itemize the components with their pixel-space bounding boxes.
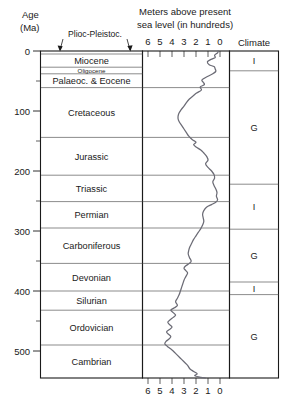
period-label-palaeoc-eocene: Palaeoc. & Eocene <box>52 76 130 86</box>
age-tick-label-0: 0 <box>25 46 30 57</box>
sl-top-tick-label-2: 2 <box>193 36 198 47</box>
climate-band-label: G <box>250 251 257 261</box>
leader-arrow-right <box>127 39 133 52</box>
sea-level-axis-bottom: 6 5 4 3 2 1 0 <box>145 378 222 396</box>
climate-band-label: I <box>253 284 256 294</box>
climate-column-frame <box>230 51 279 378</box>
period-label-ordovician: Ordovician <box>70 323 114 333</box>
sl-top-tick-label-3: 3 <box>181 36 186 47</box>
leader-arrow-left <box>58 39 63 52</box>
sl-top-tick-label-1: 1 <box>205 36 210 47</box>
plioc-pleistoc-leader-label: Plioc-Pleistoc. <box>68 29 122 39</box>
climate-column-label: Climate <box>238 37 270 48</box>
age-tick-100: 100 <box>14 106 40 117</box>
age-tick-label-500: 500 <box>14 346 30 357</box>
period-label-cambrian: Cambrian <box>72 357 112 367</box>
age-label-line1: Age <box>22 9 39 20</box>
sl-bottom-tick-label-4: 4 <box>169 385 174 396</box>
sl-top-tick-label-6: 6 <box>145 36 150 47</box>
age-tick-label-200: 200 <box>14 166 30 177</box>
sl-bottom-tick-label-1: 1 <box>205 385 210 396</box>
sl-bottom-tick-label-2: 2 <box>193 385 198 396</box>
period-label-carboniferous: Carboniferous <box>63 241 121 251</box>
sea-level-curve <box>165 51 218 378</box>
sea-level-axis-top: 6 5 4 3 2 1 0 <box>145 36 222 57</box>
figure-svg: Age (Ma) Meters above present sea level … <box>0 0 291 415</box>
age-tick-label-300: 300 <box>14 226 30 237</box>
climate-bands: IGIGIG <box>143 56 279 345</box>
age-tick-label-400: 400 <box>14 286 30 297</box>
sea-level-plot-frame <box>143 51 230 378</box>
period-label-triassic: Triassic <box>76 184 108 194</box>
period-label-oligocene: Oligocene <box>78 67 106 74</box>
age-tick-200: 200 <box>14 166 40 177</box>
period-label-miocene: Miocene <box>74 56 109 66</box>
sea-level-label-line2: sea level (in hundreds) <box>137 19 233 30</box>
age-tick-500: 500 <box>14 346 40 357</box>
period-rows: MioceneOligocenePalaeoc. & EoceneCretace… <box>41 54 143 367</box>
period-label-permian: Permian <box>74 210 108 220</box>
sl-top-tick-label-5: 5 <box>157 36 162 47</box>
climate-band-label: G <box>250 123 257 133</box>
climate-band-label: G <box>250 332 257 342</box>
sea-level-label-line1: Meters above present <box>139 6 231 17</box>
age-tick-0: 0 <box>25 46 41 57</box>
sl-bottom-tick-label-5: 5 <box>157 385 162 396</box>
sl-bottom-tick-label-3: 3 <box>181 385 186 396</box>
age-label-line2: (Ma) <box>20 22 40 33</box>
sl-bottom-tick-label-0: 0 <box>217 385 222 396</box>
period-label-devonian: Devonian <box>72 273 111 283</box>
age-axis: 0 100 200 300 400 500 <box>14 46 40 379</box>
climate-band-label: I <box>253 202 256 212</box>
period-label-cretaceous: Cretaceous <box>68 108 115 118</box>
sl-bottom-tick-label-6: 6 <box>145 385 150 396</box>
sea-level-geologic-timescale-figure: Age (Ma) Meters above present sea level … <box>0 0 291 415</box>
sl-top-tick-label-4: 4 <box>169 36 174 47</box>
sl-top-tick-label-0: 0 <box>217 36 222 47</box>
period-label-jurassic: Jurassic <box>75 152 109 162</box>
climate-band-label: I <box>253 56 256 66</box>
age-tick-label-100: 100 <box>14 106 30 117</box>
age-tick-300: 300 <box>14 226 40 237</box>
period-label-silurian: Silurian <box>76 296 107 306</box>
age-tick-400: 400 <box>14 286 40 297</box>
